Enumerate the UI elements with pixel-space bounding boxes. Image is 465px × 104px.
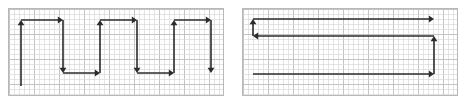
grid-lines xyxy=(9,9,223,95)
left-panel-svg xyxy=(9,9,223,95)
spiral-path-panel xyxy=(242,8,458,96)
boustrophedon-path-panel xyxy=(8,8,224,96)
figure-root xyxy=(0,0,465,104)
right-panel-svg xyxy=(243,9,457,95)
grid-lines xyxy=(243,9,457,95)
seg-down-3-arrowhead-icon xyxy=(208,68,215,73)
